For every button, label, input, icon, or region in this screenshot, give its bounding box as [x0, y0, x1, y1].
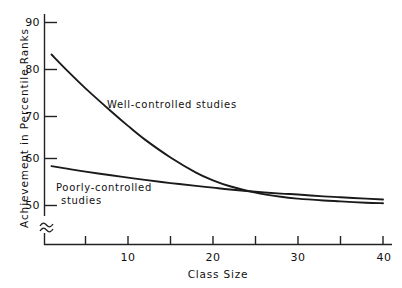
axis-lines — [44, 14, 392, 245]
chart-figure: Achievement in Percentile Ranks 90 80 70… — [0, 0, 402, 288]
plot-canvas — [0, 0, 402, 288]
y-axis-ticks — [44, 23, 57, 206]
series-line-well-controlled — [52, 55, 384, 204]
x-axis-ticks — [86, 236, 384, 244]
y-axis-break-icon — [40, 223, 53, 232]
